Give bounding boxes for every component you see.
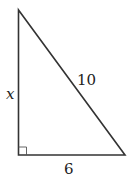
label-hypotenuse: 10 xyxy=(77,71,96,89)
label-horizontal-leg: 6 xyxy=(64,160,74,178)
label-vertical-leg: x xyxy=(6,85,15,103)
triangle xyxy=(19,10,126,155)
right-angle-marker xyxy=(19,147,27,155)
right-triangle-diagram: x 10 6 xyxy=(0,0,135,181)
